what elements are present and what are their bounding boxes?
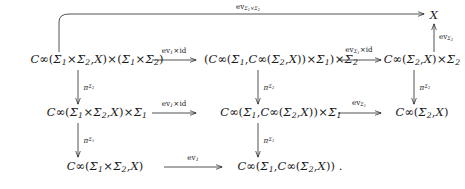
arrow-label-r2c3-X: evΣ2 — [439, 33, 453, 42]
node-r2c3: C∞(Σ2,X)×Σ2 — [384, 54, 461, 67]
trailing-period: . — [335, 159, 343, 173]
node-r3c1: C∞(Σ1×Σ2,X)×Σ1 — [47, 107, 147, 120]
arrow-label-r2c1-r2c2: ev1×id — [162, 47, 187, 55]
arrow-label-r3c1-r4c1: πΣ1 — [84, 137, 95, 144]
arrow-label-top-ev: evΣ1×Σ2 — [236, 3, 260, 12]
arrow-label-r2c2-r2c3: evΣ1×id — [345, 46, 372, 55]
arrow-label-r4c1-r4c2: ev1 — [187, 154, 199, 162]
node-r3c2: C∞(Σ1,C∞(Σ2,X))×Σ1 — [220, 107, 341, 120]
arrow-label-r2c1-r3c1: πΣ2 — [84, 84, 95, 91]
arrow-label-r2c2-r3c2: πΣ2 — [264, 84, 275, 91]
node-r2c2: (C∞(Σ1,C∞(Σ2,X))×Σ1)×Σ2 — [204, 54, 358, 67]
node-r4c1: C∞(Σ1×Σ2,X) — [67, 161, 144, 174]
arrow-label-r3c2-r4c2: πΣ1 — [264, 137, 275, 144]
node-r4c2: C∞(Σ1,C∞(Σ2,X)) . — [237, 161, 342, 174]
arrow-label-r2c3-r3c3: πΣ2 — [420, 84, 431, 91]
arrow-label-r3c1-r3c2: ev1×id — [162, 100, 187, 108]
node-r3c3: C∞(Σ2,X) — [396, 107, 449, 120]
commutative-diagram: X C∞(Σ1×Σ2,X)×(Σ1×Σ2) (C∞(Σ1,C∞(Σ2,X))×Σ… — [0, 0, 465, 189]
node-r2c1: C∞(Σ1×Σ2,X)×(Σ1×Σ2) — [30, 54, 163, 67]
arrow-label-r3c2-r3c3: evΣ1 — [352, 99, 366, 108]
node-X: X — [430, 10, 438, 22]
